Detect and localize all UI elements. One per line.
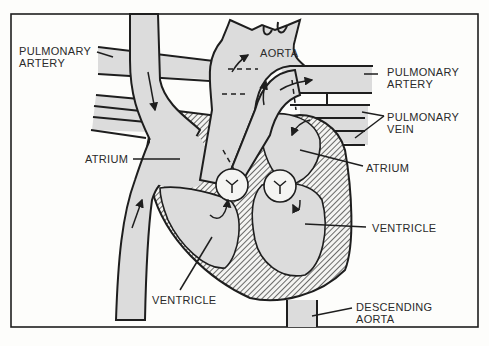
label-pulmonary-vein-1: PULMONARY — [387, 111, 460, 123]
label-pulmonary-artery-right-2: ARTERY — [387, 78, 433, 90]
label-atrium-right: ATRIUM — [366, 162, 409, 174]
label-ventricle-left: VENTRICLE — [152, 294, 216, 306]
label-descending-aorta-2: AORTA — [356, 313, 395, 325]
heart-diagram: PULMONARY ARTERY AORTA PULMONARY ARTERY … — [0, 0, 489, 346]
label-descending-aorta-1: DESCENDING — [356, 301, 432, 313]
label-aorta: AORTA — [260, 47, 299, 59]
label-pulmonary-artery-left-2: ARTERY — [19, 57, 65, 69]
label-ventricle-right: VENTRICLE — [372, 222, 436, 234]
label-atrium-left: ATRIUM — [85, 153, 128, 165]
descending-aorta — [287, 300, 317, 327]
label-pulmonary-artery-right-1: PULMONARY — [387, 66, 460, 78]
left-atrium — [150, 131, 208, 189]
label-pulmonary-artery-left-1: PULMONARY — [19, 45, 92, 57]
label-pulmonary-vein-2: VEIN — [387, 123, 414, 135]
